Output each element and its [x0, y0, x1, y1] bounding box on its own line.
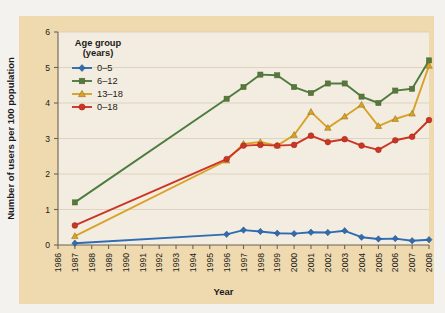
x-tick-label: 1993	[171, 253, 181, 272]
marker-circle	[376, 147, 382, 153]
marker-square	[72, 200, 77, 205]
marker-circle	[241, 143, 247, 149]
x-tick-label: 2006	[390, 253, 400, 272]
y-tick-label: 6	[45, 27, 50, 37]
x-tick-label: 2002	[323, 253, 333, 272]
y-tick-label: 2	[45, 169, 50, 179]
marker-square	[393, 88, 398, 93]
x-tick-label: 1997	[239, 253, 249, 272]
x-tick-label: 2005	[374, 253, 384, 272]
marker-circle	[342, 136, 348, 142]
legend-item-label: 0–18	[97, 102, 118, 112]
x-tick-label: 1999	[272, 253, 282, 272]
chart-plot-area: 0123456198619871988198919901991199219931…	[0, 0, 445, 313]
marker-circle	[392, 137, 398, 143]
marker-square	[376, 100, 381, 105]
marker-square	[79, 78, 85, 84]
y-tick-label: 1	[45, 205, 50, 215]
x-tick-label: 1991	[138, 253, 148, 272]
legend-item-label: 13–18	[97, 89, 123, 99]
x-tick-label: 2007	[407, 253, 417, 272]
marker-square	[275, 73, 280, 78]
legend-title-line2: (years)	[83, 48, 114, 58]
marker-square	[224, 96, 229, 101]
x-tick-label: 1988	[87, 253, 97, 272]
x-tick-label: 2008	[424, 253, 434, 272]
x-axis-title: Year	[213, 286, 233, 297]
marker-circle	[325, 139, 331, 145]
x-tick-label: 1992	[154, 253, 164, 272]
x-tick-label: 1995	[205, 253, 215, 272]
legend-title-line1: Age group	[75, 38, 122, 48]
marker-square	[258, 72, 263, 77]
x-tick-label: 2004	[357, 253, 367, 272]
line-chart-svg: 0123456198619871988198919901991199219931…	[0, 0, 445, 313]
marker-square	[291, 84, 296, 89]
legend-item-label: 6–12	[97, 76, 118, 86]
x-tick-label: 1994	[188, 253, 198, 272]
x-tick-label: 1996	[222, 253, 232, 272]
marker-square	[308, 90, 313, 95]
marker-circle	[258, 142, 264, 148]
marker-square	[325, 81, 330, 86]
legend-item-label: 0–5	[97, 63, 113, 73]
y-axis-title: Number of users per 100 population	[5, 57, 16, 220]
marker-square	[342, 81, 347, 86]
marker-square	[241, 84, 246, 89]
marker-circle	[426, 117, 432, 123]
y-tick-label: 3	[45, 134, 50, 144]
marker-circle	[409, 134, 415, 140]
x-tick-label: 2000	[289, 253, 299, 272]
marker-circle	[274, 143, 280, 149]
x-tick-label: 1998	[256, 253, 266, 272]
x-tick-label: 2003	[340, 253, 350, 272]
x-tick-label: 2001	[306, 253, 316, 272]
marker-circle	[224, 156, 230, 162]
figure-container: 0123456198619871988198919901991199219931…	[0, 0, 445, 313]
x-tick-label: 1989	[104, 253, 114, 272]
y-tick-label: 0	[45, 240, 50, 250]
x-tick-label: 1990	[121, 253, 131, 272]
marker-circle	[72, 223, 78, 229]
marker-square	[410, 86, 415, 91]
y-tick-label: 4	[45, 98, 50, 108]
x-tick-label: 1986	[53, 253, 63, 272]
marker-circle	[79, 104, 85, 110]
y-tick-label: 5	[45, 63, 50, 73]
marker-circle	[359, 143, 365, 149]
marker-circle	[308, 133, 314, 139]
x-tick-label: 1987	[70, 253, 80, 272]
marker-circle	[291, 142, 297, 148]
marker-square	[359, 94, 364, 99]
